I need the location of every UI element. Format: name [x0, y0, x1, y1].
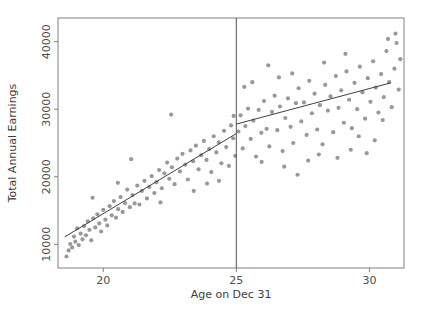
data-point	[222, 129, 226, 133]
data-point	[145, 196, 149, 200]
data-point	[188, 148, 192, 152]
data-point	[357, 134, 361, 138]
data-point	[84, 233, 88, 237]
data-point	[224, 145, 228, 149]
data-point	[73, 240, 77, 244]
data-point	[196, 167, 200, 171]
data-point	[172, 182, 176, 186]
data-point	[282, 165, 286, 169]
data-point	[317, 152, 321, 156]
y-axis-label: Total Annual Earnings	[6, 83, 19, 203]
data-point	[238, 113, 242, 117]
data-point	[227, 164, 231, 168]
data-point	[297, 86, 301, 90]
data-point	[105, 223, 109, 227]
data-point	[310, 111, 314, 115]
data-point	[160, 186, 164, 190]
data-point	[384, 49, 388, 53]
data-point	[336, 106, 340, 110]
data-point	[349, 148, 353, 152]
data-point	[79, 231, 83, 235]
x-tick-label: 30	[362, 274, 376, 287]
data-point	[64, 254, 68, 258]
data-point	[382, 95, 386, 99]
data-point	[344, 69, 348, 73]
x-tick-label: 20	[96, 274, 110, 287]
data-point	[277, 75, 281, 79]
data-point	[243, 124, 247, 128]
data-point	[158, 200, 162, 204]
data-point	[204, 158, 208, 162]
data-point	[371, 59, 375, 63]
data-point	[67, 248, 71, 252]
data-point	[125, 188, 129, 192]
data-point	[121, 210, 125, 214]
data-point	[250, 80, 254, 84]
x-tick-label: 25	[229, 274, 243, 287]
data-point	[135, 183, 139, 187]
data-point	[376, 110, 380, 114]
data-point	[257, 108, 261, 112]
data-point	[246, 106, 250, 110]
data-point	[202, 139, 206, 143]
data-point	[379, 72, 383, 76]
data-point	[170, 165, 174, 169]
data-point	[133, 201, 137, 205]
data-point	[103, 218, 107, 222]
data-point	[260, 160, 264, 164]
data-point	[128, 205, 132, 209]
data-point	[229, 123, 233, 127]
data-point	[112, 199, 116, 203]
data-point	[347, 98, 351, 102]
data-point	[262, 99, 266, 103]
data-point	[180, 152, 184, 156]
x-axis-ticks: 202530	[96, 268, 376, 287]
data-point	[232, 114, 236, 118]
data-point	[152, 191, 156, 195]
data-point	[392, 67, 396, 71]
data-point	[265, 127, 269, 131]
data-point	[289, 125, 293, 129]
data-point	[366, 76, 370, 80]
data-point	[110, 213, 114, 217]
x-axis-label: Age on Dec 31	[191, 288, 272, 301]
data-point	[93, 225, 97, 229]
data-point	[192, 189, 196, 193]
data-point	[358, 65, 362, 69]
data-point	[275, 128, 279, 132]
data-point	[137, 202, 141, 206]
data-point	[80, 237, 84, 241]
data-point	[315, 127, 319, 131]
y-axis-ticks: 10000200003000040000	[40, 24, 58, 262]
y-tick-label: 40000	[40, 24, 53, 59]
data-point	[397, 88, 401, 92]
data-point	[114, 216, 118, 220]
data-point	[77, 243, 81, 247]
plot-frame	[58, 18, 404, 268]
data-point	[355, 107, 359, 111]
data-point	[365, 151, 369, 155]
data-point	[342, 121, 346, 125]
data-point	[373, 138, 377, 142]
data-point	[212, 134, 216, 138]
data-point	[304, 133, 308, 137]
data-point	[290, 71, 294, 75]
data-point	[219, 161, 223, 165]
data-point	[323, 83, 327, 87]
data-point	[270, 110, 274, 114]
data-point	[322, 60, 326, 64]
data-point	[162, 171, 166, 175]
y-tick-label: 20000	[40, 159, 53, 194]
data-point	[328, 94, 332, 98]
data-point	[281, 149, 285, 153]
data-point	[142, 179, 146, 183]
data-point	[398, 57, 402, 61]
data-point	[241, 146, 245, 150]
data-point	[273, 94, 277, 98]
data-point	[318, 103, 322, 107]
data-point	[267, 144, 271, 148]
data-point	[294, 101, 298, 105]
data-point	[129, 157, 133, 161]
data-point	[87, 228, 91, 232]
data-point	[150, 174, 154, 178]
